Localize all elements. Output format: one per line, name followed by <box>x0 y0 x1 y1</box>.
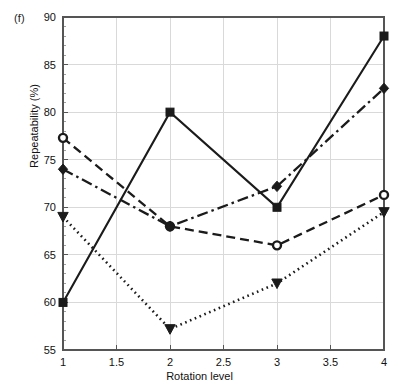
x-tick-label: 2.5 <box>216 356 231 368</box>
x-tick-label: 2 <box>167 356 173 368</box>
circle-marker <box>380 191 388 199</box>
x-tick-label: 3 <box>274 356 280 368</box>
y-tick-label: 65 <box>44 249 56 261</box>
y-tick-label: 90 <box>44 11 56 23</box>
y-tick-label: 70 <box>44 201 56 213</box>
gridlines <box>63 17 384 350</box>
y-tick-label: 75 <box>44 154 56 166</box>
y-tick-label: 60 <box>44 296 56 308</box>
figure-panel-f: (f) Repeatability (%) Rotation level 556… <box>0 0 399 390</box>
x-tick-label: 3.5 <box>323 356 338 368</box>
triangle-down-marker <box>165 325 175 335</box>
square-marker <box>380 32 388 40</box>
diamond-marker <box>58 164 67 174</box>
x-tick-label: 4 <box>381 356 387 368</box>
y-tick-label: 55 <box>44 344 56 356</box>
x-tick-label: 1 <box>60 356 66 368</box>
y-tick-label: 85 <box>44 59 56 71</box>
triangle-down-marker <box>272 279 282 289</box>
x-axis-ticks: 11.522.533.54 <box>60 345 387 368</box>
y-tick-label: 80 <box>44 106 56 118</box>
circle-marker <box>273 241 281 249</box>
triangle-down-marker <box>379 208 389 218</box>
square-marker <box>273 203 281 211</box>
square-marker <box>166 108 174 116</box>
x-tick-label: 1.5 <box>109 356 124 368</box>
line-chart-plot: 5560657075808590 11.522.533.54 <box>0 0 399 390</box>
circle-marker <box>59 134 67 142</box>
square-marker <box>59 298 67 306</box>
